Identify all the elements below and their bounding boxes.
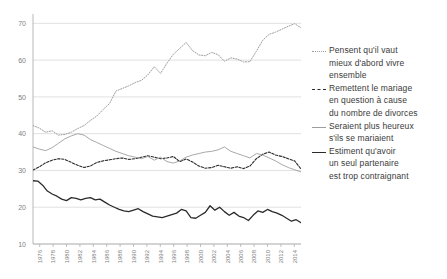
legend-marker-solid-dark-bold-icon xyxy=(312,146,326,159)
x-axis-tick-labels: 1976197819801982198419861988199019921994… xyxy=(37,249,298,263)
data-series-line-3 xyxy=(33,134,301,172)
data-series-line-1 xyxy=(33,24,301,135)
x-tick-label: 2000 xyxy=(198,249,204,263)
legend-label-line: en question à cause xyxy=(329,94,418,107)
legend-label-line: un seul partenaire xyxy=(329,157,409,170)
legend-label-line: Seraient plus heureux xyxy=(329,120,414,133)
x-tick-label: 2010 xyxy=(265,249,271,263)
legend-marker-dashed-dark-icon xyxy=(312,83,326,96)
legend-label-3: Seraient plus heureuxs'ils se mariaient xyxy=(329,120,414,145)
legend-entry-1: Pensent qu'il vautmieux d'abord vivreens… xyxy=(312,44,447,82)
legend-label-line: est trop contraignant xyxy=(329,170,409,183)
legend-marker-dotted-light-icon xyxy=(312,45,326,58)
y-tick-label: 20 xyxy=(18,204,26,211)
y-tick-label: 60 xyxy=(18,57,26,64)
legend-label-line: s'ils se mariaient xyxy=(329,132,414,145)
gridlines xyxy=(33,23,301,244)
legend-label-line: mieux d'abord vivre xyxy=(329,57,404,70)
data-series-line-4 xyxy=(33,181,301,223)
axis-lines xyxy=(33,14,301,244)
chart-legend: Pensent qu'il vautmieux d'abord vivreens… xyxy=(312,44,447,183)
x-tick-label: 2006 xyxy=(238,249,244,263)
legend-label-line: Pensent qu'il vaut xyxy=(329,44,404,57)
legend-label-4: Estiment qu'avoirun seul partenaireest t… xyxy=(329,145,409,183)
legend-label-line: Remettent le mariage xyxy=(329,82,418,95)
x-tick-label: 1998 xyxy=(184,249,190,263)
x-tick-label: 2014 xyxy=(292,249,298,263)
x-tick-label: 1992 xyxy=(144,249,150,263)
legend-marker-solid-light-icon xyxy=(312,121,326,134)
plot-area: 10203040506070 1976197819801982198419861… xyxy=(0,0,305,279)
legend-entry-2: Remettent le mariageen question à caused… xyxy=(312,82,447,120)
legend-entry-3: Seraient plus heureuxs'ils se mariaient xyxy=(312,120,447,145)
x-tick-label: 1984 xyxy=(91,249,97,263)
data-series-layer xyxy=(33,24,301,223)
x-tick-label: 1990 xyxy=(131,249,137,263)
y-tick-label: 50 xyxy=(18,94,26,101)
y-tick-label: 30 xyxy=(18,167,26,174)
y-tick-label: 10 xyxy=(18,241,26,248)
legend-label-line: ensemble xyxy=(329,69,404,82)
x-tick-label: 1994 xyxy=(158,249,164,263)
x-tick-label: 2004 xyxy=(225,249,231,263)
x-tick-label: 2008 xyxy=(251,249,257,263)
x-tick-label: 1976 xyxy=(37,249,43,263)
y-axis-tick-labels: 10203040506070 xyxy=(18,20,26,248)
legend-label-1: Pensent qu'il vautmieux d'abord vivreens… xyxy=(329,44,404,82)
legend-label-2: Remettent le mariageen question à caused… xyxy=(329,82,418,120)
x-tick-label: 1986 xyxy=(104,249,110,263)
x-tick-label: 2002 xyxy=(211,249,217,263)
chart-container: 10203040506070 1976197819801982198419861… xyxy=(0,0,447,279)
x-tick-label: 1996 xyxy=(171,249,177,263)
x-tick-label: 1982 xyxy=(77,249,83,263)
y-tick-label: 40 xyxy=(18,130,26,137)
legend-entry-4: Estiment qu'avoirun seul partenaireest t… xyxy=(312,145,447,183)
y-tick-label: 70 xyxy=(18,20,26,27)
x-tick-label: 1988 xyxy=(117,249,123,263)
x-tick-label: 1978 xyxy=(50,249,56,263)
legend-label-line: du nombre de divorces xyxy=(329,107,418,120)
x-tick-label: 1980 xyxy=(64,249,70,263)
legend-label-line: Estiment qu'avoir xyxy=(329,145,409,158)
line-chart-svg: 10203040506070 1976197819801982198419861… xyxy=(0,0,305,279)
x-tick-label: 2012 xyxy=(278,249,284,263)
